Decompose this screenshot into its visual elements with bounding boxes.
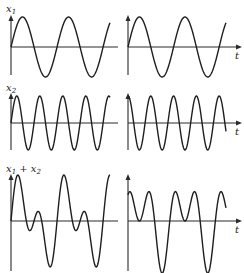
x-axis-label: t: [235, 50, 240, 61]
x-axis-label: t: [235, 224, 240, 235]
x-axis-arrow-icon: [236, 45, 242, 50]
panel-left-2: [9, 93, 119, 150]
x-axis-arrow-icon: [236, 121, 242, 126]
panel-right-3: t: [126, 174, 243, 273]
row-label-1: x1: [6, 3, 16, 16]
panel-right-1: t: [126, 15, 243, 77]
panel-left-3: [9, 174, 119, 271]
x-axis-arrow-icon: [236, 219, 242, 224]
series-x1x2-right: [128, 192, 226, 273]
x-axis-label: t: [235, 126, 240, 137]
row-label-3: x1 + x2: [6, 163, 42, 176]
superposition-figure: x1x2x1 + x2 ttt: [0, 0, 244, 273]
panel-left-1: [9, 15, 119, 77]
panel-right-2: t: [126, 93, 243, 150]
y-axis-arrow-icon: [126, 15, 131, 21]
y-axis-arrow-icon: [126, 174, 131, 180]
row-label-2: x2: [6, 82, 17, 95]
